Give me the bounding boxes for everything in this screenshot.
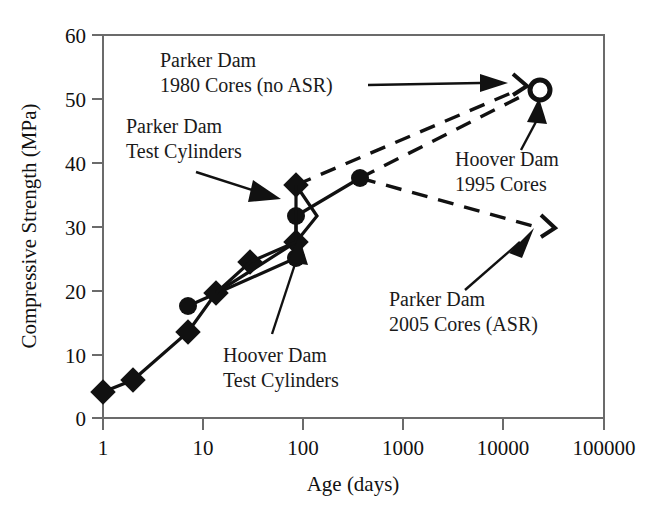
figure-background xyxy=(0,0,668,510)
chart-canvas: 60 50 40 30 20 10 0 1 10 100 1000 10000 … xyxy=(0,0,668,510)
annotation-line: 1980 Cores (no ASR) xyxy=(160,74,333,97)
chart-figure: 60 50 40 30 20 10 0 1 10 100 1000 10000 … xyxy=(0,0,668,510)
x-axis-title: Age (days) xyxy=(307,472,400,496)
x-tick-1000: 1000 xyxy=(382,436,424,460)
y-tick-10: 10 xyxy=(65,344,86,368)
y-tick-20: 20 xyxy=(65,280,86,304)
data-point xyxy=(351,169,369,187)
y-tick-40: 40 xyxy=(65,152,86,176)
annotation-line: Test Cylinders xyxy=(126,140,242,163)
x-tick-1: 1 xyxy=(98,436,109,460)
x-tick-10: 10 xyxy=(193,436,214,460)
y-tick-0: 0 xyxy=(76,407,87,431)
series-hoover-1995-marker xyxy=(530,80,550,100)
y-tick-50: 50 xyxy=(65,88,86,112)
annotation-line: Test Cylinders xyxy=(223,369,339,392)
data-point xyxy=(179,297,197,315)
annotation-line: 1995 Cores xyxy=(455,173,547,195)
y-axis-title: Compressive Strength (MPa) xyxy=(17,104,41,349)
annotation-line: Parker Dam xyxy=(389,288,486,310)
annotation-line: Parker Dam xyxy=(126,115,223,137)
y-tick-30: 30 xyxy=(65,216,86,240)
annotation-line: Parker Dam xyxy=(160,49,257,71)
annotation-line: Hoover Dam xyxy=(455,148,559,170)
x-tick-100: 100 xyxy=(287,436,319,460)
data-point-open-circle xyxy=(530,80,550,100)
annotation-line: Hoover Dam xyxy=(223,344,327,366)
y-tick-60: 60 xyxy=(65,24,86,48)
annotation-line: 2005 Cores (ASR) xyxy=(389,313,538,336)
x-tick-10000: 10000 xyxy=(477,436,530,460)
x-tick-100000: 100000 xyxy=(573,436,636,460)
